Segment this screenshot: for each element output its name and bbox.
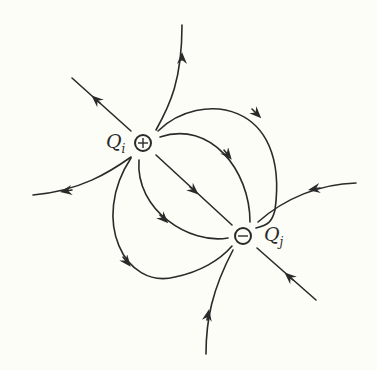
arrow-icon	[66, 190, 72, 191]
field-line-upper-inner-arc	[160, 134, 250, 222]
arrow-icon	[207, 315, 208, 320]
arrow-icon	[96, 100, 100, 104]
charge-label-qi-subscript: i	[122, 142, 126, 156]
field-line-lower-outer-arc	[113, 158, 232, 279]
negative-charge-icon	[235, 228, 251, 244]
arrow-icon	[314, 188, 320, 189]
charge-label-qj-subscript: j	[280, 235, 284, 249]
positive-charge-icon	[135, 135, 151, 151]
charge-label-qi-letter: Q	[106, 130, 122, 152]
field-line-inward-bottom	[206, 250, 233, 354]
field-line-upper-outer-arc	[158, 109, 277, 228]
charge-label-qj-letter: Q	[264, 223, 280, 245]
field-line-lower-inner-arc	[139, 160, 228, 239]
field-line-outward-upper-left	[72, 78, 131, 131]
field-lines-diagram: Qi Qj	[0, 0, 377, 370]
arrow-icon	[252, 109, 257, 114]
field-line-inward-lower-right	[257, 248, 316, 300]
charge-label-qi: Qi	[106, 130, 125, 156]
diagram-svg	[0, 0, 377, 370]
charge-label-qj: Qj	[264, 223, 283, 249]
field-line-outward-up	[156, 25, 182, 130]
